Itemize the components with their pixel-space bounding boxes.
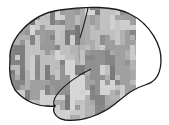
brain-illustration — [0, 0, 169, 125]
cortex-texture — [0, 0, 169, 125]
brain-figure — [0, 0, 169, 125]
